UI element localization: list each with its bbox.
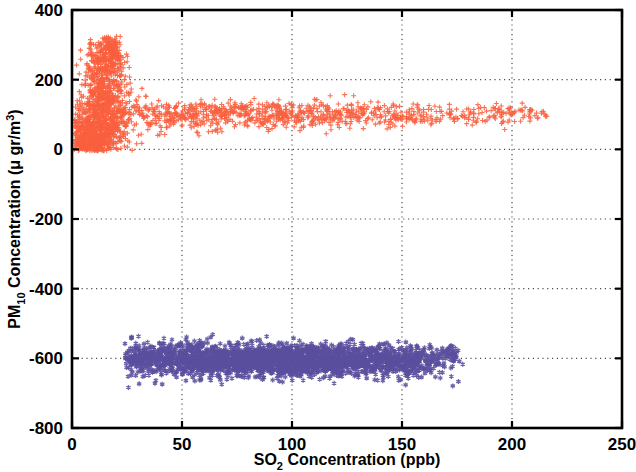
x-tick-label: 0 (67, 435, 76, 454)
x-tick-label: 50 (173, 435, 192, 454)
y-axis-title: PM10 Concentration (μ gr/m3) (4, 109, 27, 328)
tick-labels: 050100150200250-800-600-400-2000200400 (29, 1, 636, 454)
y-tick-label: 200 (35, 71, 63, 90)
y-tick-label: -600 (29, 349, 63, 368)
scatter-plot: 050100150200250-800-600-400-2000200400 S… (0, 0, 636, 472)
x-tick-label: 200 (498, 435, 526, 454)
x-tick-label: 250 (608, 435, 636, 454)
svg-text:SO2 Concentration (ppb): SO2 Concentration (ppb) (254, 451, 441, 472)
svg-text:PM10 Concentration (μ gr/m3): PM10 Concentration (μ gr/m3) (4, 109, 27, 328)
data-points (72, 34, 549, 390)
y-tick-label: -400 (29, 280, 63, 299)
y-tick-label: -200 (29, 210, 63, 229)
chart-figure: 050100150200250-800-600-400-2000200400 S… (0, 0, 636, 472)
y-tick-label: 400 (35, 1, 63, 20)
x-axis-title: SO2 Concentration (ppb) (254, 451, 441, 472)
y-tick-label: -800 (29, 419, 63, 438)
y-tick-label: 0 (54, 140, 63, 159)
